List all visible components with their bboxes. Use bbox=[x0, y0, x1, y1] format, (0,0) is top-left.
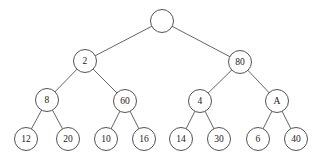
tree-edge bbox=[248, 70, 269, 92]
node-circle bbox=[151, 10, 174, 33]
node-label: 4 bbox=[198, 96, 203, 106]
tree-node: 6 bbox=[247, 128, 270, 151]
tree-edges-group bbox=[31, 26, 290, 129]
node-label: 16 bbox=[139, 134, 149, 144]
tree-edge bbox=[93, 69, 117, 93]
tree-node: 40 bbox=[285, 128, 308, 151]
tree-edge bbox=[55, 69, 77, 92]
tree-nodes-group: 2808604A122010161430640 bbox=[15, 10, 308, 151]
node-label: 6 bbox=[256, 134, 261, 144]
tree-node: 4 bbox=[189, 90, 212, 113]
tree-edge bbox=[31, 110, 41, 129]
node-label: 8 bbox=[45, 95, 50, 105]
tree-node: 80 bbox=[229, 51, 252, 74]
binary-tree-diagram: 2808604A122010161430640 bbox=[0, 0, 320, 161]
tree-node: 20 bbox=[57, 128, 80, 151]
tree-node: 60 bbox=[114, 90, 137, 113]
tree-edge bbox=[282, 111, 291, 128]
tree-canvas: 2808604A122010161430640 bbox=[0, 0, 320, 161]
tree-node: 2 bbox=[74, 50, 97, 73]
node-label: 14 bbox=[176, 134, 186, 144]
tree-node: A bbox=[266, 90, 289, 113]
tree-edge bbox=[205, 111, 214, 128]
node-label: A bbox=[274, 96, 281, 106]
node-label: 10 bbox=[101, 134, 111, 144]
tree-node: 16 bbox=[133, 128, 156, 151]
node-label: 12 bbox=[21, 134, 31, 144]
node-label: 20 bbox=[63, 134, 73, 144]
tree-node: 8 bbox=[36, 89, 59, 112]
node-label: 2 bbox=[83, 56, 88, 66]
tree-edge bbox=[52, 110, 62, 129]
tree-edge bbox=[186, 111, 195, 128]
tree-node: 14 bbox=[170, 128, 193, 151]
tree-edge bbox=[130, 111, 139, 128]
tree-node: 12 bbox=[15, 128, 38, 151]
tree-edge bbox=[111, 111, 120, 128]
node-label: 60 bbox=[120, 96, 130, 106]
node-label: 40 bbox=[291, 134, 301, 144]
tree-edge bbox=[95, 26, 152, 55]
tree-edge bbox=[208, 70, 232, 93]
tree-edge bbox=[172, 26, 230, 56]
tree-node-empty bbox=[151, 10, 174, 33]
tree-node: 30 bbox=[208, 128, 231, 151]
tree-edge bbox=[263, 111, 272, 128]
node-label: 80 bbox=[235, 57, 245, 67]
tree-node: 10 bbox=[95, 128, 118, 151]
node-label: 30 bbox=[214, 134, 224, 144]
